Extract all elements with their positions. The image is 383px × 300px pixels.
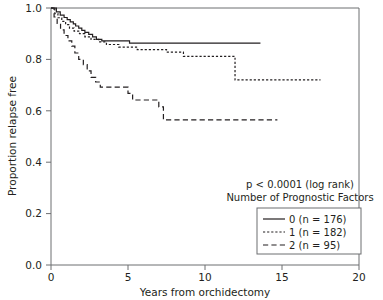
x-axis-title: Years from orchidectomy [139, 286, 271, 298]
x-tick-label-15: 15 [275, 271, 288, 283]
curve-group-1 [51, 8, 321, 80]
x-axis-tick-labels: 0 5 10 15 20 [48, 271, 366, 283]
y-tick-label-0-4: 0.4 [25, 156, 42, 168]
p-value-text: p < 0.0001 (log rank) [246, 179, 354, 190]
kaplan-meier-figure: 1.0 0.8 0.6 0.4 0.2 0.0 0 5 10 15 20 Pro… [0, 0, 383, 300]
curve-group-0 [51, 8, 260, 43]
legend: 0 (n = 176) 1 (n = 182) 2 (n = 95) [257, 208, 361, 254]
x-tick-label-0: 0 [48, 271, 55, 283]
y-tick-label-0-0: 0.0 [25, 259, 42, 271]
legend-label-0: 0 (n = 176) [289, 214, 347, 225]
x-axis-ticks [51, 265, 359, 270]
y-tick-label-0-8: 0.8 [25, 53, 42, 65]
y-tick-label-1-0: 1.0 [25, 2, 42, 14]
statistics-annotation: p < 0.0001 (log rank) Number of Prognost… [226, 179, 373, 203]
curve-group-2 [51, 8, 277, 120]
x-tick-label-10: 10 [198, 271, 211, 283]
x-tick-label-20: 20 [352, 271, 365, 283]
y-tick-label-0-6: 0.6 [25, 105, 42, 117]
y-axis-ticks [46, 8, 51, 265]
y-axis-tick-labels: 1.0 0.8 0.6 0.4 0.2 0.0 [25, 2, 42, 271]
survival-curves [51, 8, 321, 120]
y-axis-title: Proportion relapse free [6, 76, 18, 196]
survival-curve-chart: 1.0 0.8 0.6 0.4 0.2 0.0 0 5 10 15 20 Pro… [0, 0, 383, 300]
x-tick-label-5: 5 [125, 271, 132, 283]
legend-label-2: 2 (n = 95) [289, 240, 340, 251]
prognostic-factors-label: Number of Prognostic Factors [226, 192, 373, 203]
y-tick-label-0-2: 0.2 [25, 207, 42, 219]
legend-label-1: 1 (n = 182) [289, 227, 347, 238]
